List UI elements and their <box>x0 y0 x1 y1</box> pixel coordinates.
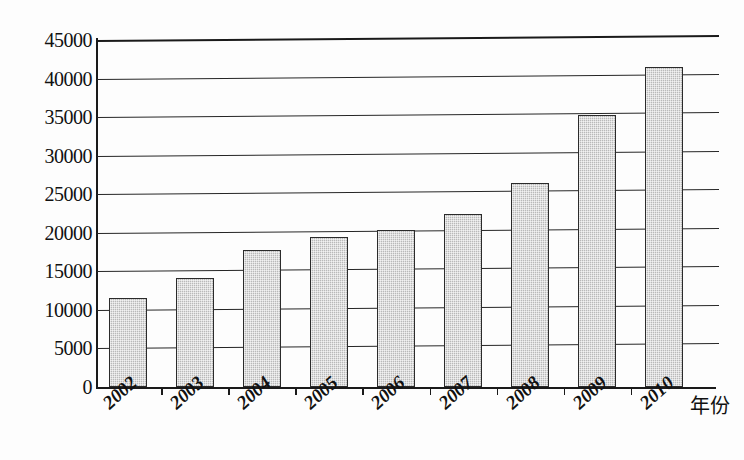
x-axis-title: 年份 <box>690 396 730 416</box>
bar-chart: 0500010000150002000025000300003500040000… <box>0 0 744 460</box>
bar <box>377 230 415 387</box>
y-axis-tick-label: 40000 <box>0 69 92 89</box>
x-axis-tick <box>564 387 566 395</box>
y-axis-tick-label: 25000 <box>0 184 92 204</box>
gridline <box>97 74 719 80</box>
y-axis-tick-label: 15000 <box>0 261 92 281</box>
bar <box>444 214 482 388</box>
gridline <box>97 189 719 195</box>
y-axis-tick-label: 20000 <box>0 223 92 243</box>
x-axis-tick <box>228 387 230 395</box>
y-axis-tick-label: 35000 <box>0 107 92 127</box>
y-axis-tick-label: 5000 <box>0 338 92 358</box>
bar <box>176 278 214 387</box>
x-axis-tick <box>295 387 297 395</box>
bar <box>511 183 549 387</box>
y-axis-tick-label: 30000 <box>0 146 92 166</box>
x-axis-tick <box>161 387 163 395</box>
gridline <box>97 151 719 157</box>
gridline <box>97 112 719 118</box>
x-axis-tick <box>631 387 633 395</box>
gridline <box>97 35 719 42</box>
y-axis-tick-label: 10000 <box>0 300 92 320</box>
y-axis-tick-label: 0 <box>0 377 92 397</box>
bar <box>645 67 683 387</box>
x-axis-tick <box>497 387 499 395</box>
plot-area <box>97 40 701 387</box>
bar <box>310 237 348 387</box>
y-axis-tick-label: 45000 <box>0 30 92 50</box>
bar <box>578 115 616 387</box>
bar <box>243 250 281 387</box>
x-axis-tick <box>362 387 364 395</box>
x-axis-tick <box>430 387 432 395</box>
